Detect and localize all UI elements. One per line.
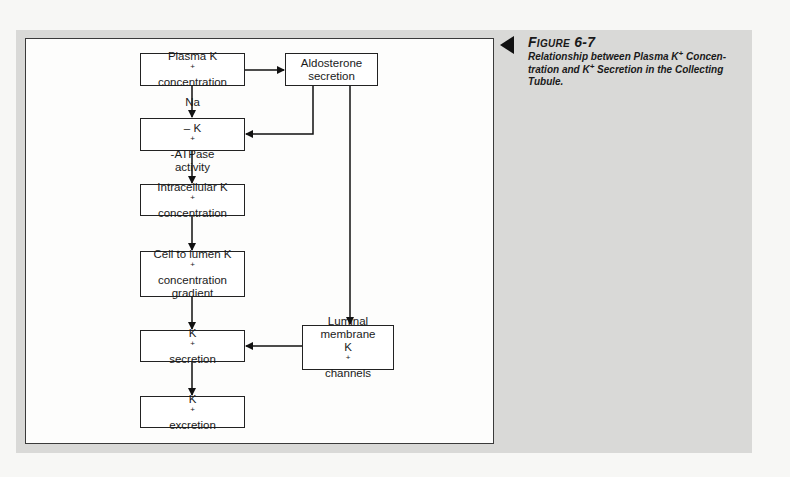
node-plasma-k-concentration: Plasma K+concentration — [140, 53, 245, 86]
node-cell-to-lumen-gradient: Cell to lumen K+concentrationgradient — [140, 251, 245, 297]
node-text: excretion — [169, 419, 216, 432]
node-text: concentration — [158, 76, 227, 89]
superscript: + — [190, 134, 195, 143]
superscript: + — [190, 193, 195, 202]
node-text: channels — [321, 367, 376, 380]
node-text: concentration — [154, 274, 232, 287]
node-text: -ATPase — [171, 148, 215, 161]
superscript: + — [190, 260, 195, 269]
node-text: concentration — [157, 207, 227, 220]
node-text: activity — [171, 161, 215, 174]
node-k-excretion: K+ excretion — [140, 396, 245, 428]
node-text: gradient — [154, 287, 232, 300]
node-text: membrane — [321, 328, 376, 341]
node-luminal-membrane-k-channels: LuminalmembraneK+ channels — [302, 325, 394, 370]
superscript: + — [190, 405, 195, 414]
node-na-k-atpase-activity: Na+– K+-ATPaseactivity — [140, 118, 245, 151]
superscript: + — [190, 339, 195, 348]
node-text: secretion — [169, 353, 216, 366]
superscript: + — [346, 353, 351, 362]
figure-description: Relationship between Plasma K+ Concen-tr… — [528, 51, 753, 89]
node-text: Luminal — [321, 315, 376, 328]
node-text: Aldosterone — [301, 57, 362, 70]
node-k-secretion: K+ secretion — [140, 330, 245, 362]
superscript: + — [190, 108, 195, 117]
superscript: + — [190, 62, 195, 71]
node-aldosterone-secretion: Aldosteronesecretion — [285, 53, 378, 86]
node-text: secretion — [301, 70, 362, 83]
node-intracellular-k-concentration: Intracellular K+concentration — [140, 184, 245, 216]
caption-text: Relationship between Plasma K — [528, 51, 679, 62]
pointer-triangle-icon — [500, 36, 514, 54]
figure-label: Figure 6-7 — [528, 34, 595, 50]
